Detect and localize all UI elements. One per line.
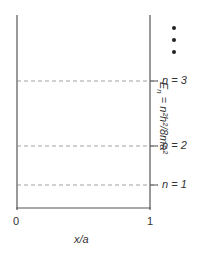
continuation-dot-2	[172, 38, 176, 42]
x-tick-1: 1	[147, 215, 153, 227]
x-axis-label: x/a	[74, 233, 89, 245]
formula-rest: = n²h²/8ma²	[158, 94, 170, 154]
x-tick-0: 0	[13, 215, 19, 227]
level-label-n1: n = 1	[162, 178, 187, 190]
continuation-dot-1	[172, 26, 176, 30]
continuation-dot-3	[172, 50, 176, 54]
energy-formula: En = n²h²/8ma²	[155, 82, 170, 154]
box-diagram	[0, 0, 217, 255]
